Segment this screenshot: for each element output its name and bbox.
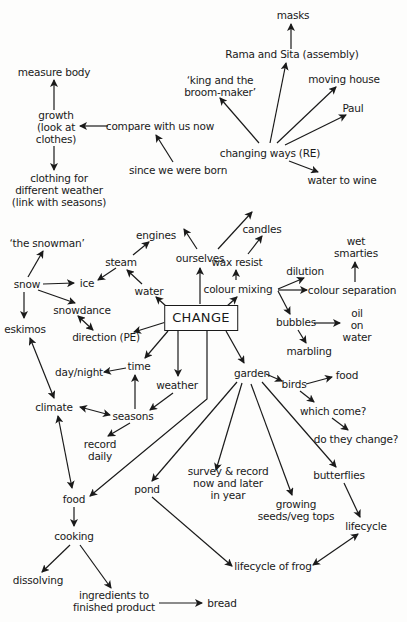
node-colour-mixing: colour mixing xyxy=(204,283,273,295)
edge-change-to-garden xyxy=(226,331,244,363)
node-colour-sep: colour separation xyxy=(308,284,396,296)
node-ice: ice xyxy=(80,277,95,289)
node-weather: weather xyxy=(156,379,198,391)
edge-weather-to-seasons xyxy=(150,393,173,410)
edge-changing_ways-to-wine xyxy=(289,161,318,172)
node-wine: water to wine xyxy=(307,174,376,186)
edge-bubbles-to-marbling xyxy=(298,330,306,343)
node-pond: pond xyxy=(134,483,160,495)
edge-steam-to-ice xyxy=(98,268,116,280)
edge-climate-to-food xyxy=(58,416,72,488)
edge-birds-to-which_come xyxy=(300,391,314,402)
node-paul: Paul xyxy=(342,102,363,114)
edge-steam-to-engines xyxy=(133,242,149,255)
edge-garden-to-butterflies xyxy=(262,382,336,467)
edge-changing_ways-to-king xyxy=(220,98,259,143)
node-birds: birds xyxy=(282,378,307,390)
node-moving: moving house xyxy=(308,73,380,85)
node-ingredients: ingredients to finished product xyxy=(73,589,155,613)
node-lifecycle: lifecycle xyxy=(345,520,386,532)
root-node-change: CHANGE xyxy=(164,305,238,331)
node-snow: snow xyxy=(14,278,40,290)
node-water: water xyxy=(135,285,164,297)
node-measure: measure body xyxy=(18,66,91,78)
edge-change-to-time xyxy=(145,331,168,358)
edge-since_born-to-compare xyxy=(156,135,173,162)
node-record-daily: record daily xyxy=(84,438,116,462)
edge-wax-to-candles xyxy=(248,236,262,254)
edge-changing_ways-to-rama xyxy=(270,63,286,143)
edge-garden-to-survey xyxy=(216,383,242,470)
edge-birds-to-food_birds xyxy=(306,377,332,384)
node-which-come: which come? xyxy=(300,405,366,417)
node-cooking: cooking xyxy=(54,530,94,542)
node-dilution: dilution xyxy=(286,265,324,277)
node-marbling: marbling xyxy=(286,345,331,357)
node-garden: garden xyxy=(234,367,270,379)
node-smarties: wet smarties xyxy=(334,235,378,259)
node-time: time xyxy=(128,360,151,372)
concept-map-canvas: CHANGEourselvessince we were borncompare… xyxy=(0,0,407,622)
edge-pond-to-frog xyxy=(152,497,232,566)
edge-lifecycle-to-frog xyxy=(313,534,358,565)
node-oil: oil on water xyxy=(343,307,372,343)
node-king: ‘king and the broom-maker’ xyxy=(184,74,256,98)
node-eskimos: eskimos xyxy=(4,323,46,335)
edge-cooking-to-dissolving xyxy=(42,545,70,572)
node-clothing: clothing for different weather (link wit… xyxy=(12,172,106,208)
node-since-born: since we were born xyxy=(129,164,227,176)
node-changing-ways: changing ways (RE) xyxy=(220,147,320,159)
node-engines: engines xyxy=(136,229,176,241)
edge-butterflies-to-lifecycle xyxy=(344,483,360,517)
node-steam: steam xyxy=(105,256,137,268)
edge-eskimos-to-climate xyxy=(30,338,54,398)
edge-seasons-to-record_daily xyxy=(108,423,130,436)
edge-ourselves-to-since_born xyxy=(184,229,197,249)
edge-snowdance-to-direction xyxy=(78,316,93,330)
edge-which_come-to-change_q xyxy=(332,418,348,430)
node-bubbles: bubbles xyxy=(276,316,316,328)
edge-snow-to-snowdance xyxy=(38,290,75,303)
edge-changing_ways-to-paul xyxy=(285,115,346,145)
node-rama: Rama and Sita (assembly) xyxy=(225,48,358,60)
node-climate: climate xyxy=(35,401,72,413)
node-masks: masks xyxy=(277,9,310,21)
node-butterflies: butterflies xyxy=(313,469,365,481)
node-candles: candles xyxy=(243,223,282,235)
node-change-q: do they change? xyxy=(314,433,398,445)
node-direction: direction (PE) xyxy=(72,331,140,343)
edge-snow-to-ice xyxy=(43,283,74,284)
edge-climate-to-seasons xyxy=(80,407,110,415)
node-compare: compare with us now xyxy=(106,120,214,132)
edge-water-to-steam xyxy=(127,270,142,284)
node-dissolving: dissolving xyxy=(13,574,63,586)
node-wax: wax resist xyxy=(211,256,262,268)
node-food: food xyxy=(63,493,85,505)
node-food-birds: food xyxy=(336,369,358,381)
node-day-night: day/night xyxy=(55,366,103,378)
edge-snow-to-snowman xyxy=(28,251,43,277)
edge-cooking-to-ingredients xyxy=(80,545,111,588)
node-seasons: seasons xyxy=(113,410,154,422)
edge-time-to-day_night xyxy=(104,368,126,372)
node-snowdance: snowdance xyxy=(53,304,110,316)
edge-colour_mixing-to-dilution xyxy=(278,278,304,289)
node-growing: growing seeds/veg tops xyxy=(258,498,335,522)
node-bread: bread xyxy=(207,597,236,609)
edge-colour_mixing-to-bubbles xyxy=(278,291,290,314)
node-frog: lifecycle of frog xyxy=(234,560,311,572)
node-growth: growth (look at clothes) xyxy=(36,109,76,145)
node-survey: survey & record now and later in year xyxy=(188,465,269,501)
node-snowman: ‘the snowman’ xyxy=(9,237,84,249)
